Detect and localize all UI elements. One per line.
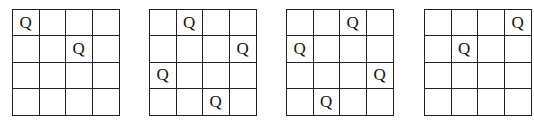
queen-label: Q xyxy=(210,92,222,112)
empty-cell xyxy=(203,63,230,89)
empty-cell xyxy=(13,89,40,115)
queen-label: Q xyxy=(458,39,470,59)
empty-cell xyxy=(367,36,394,62)
empty-cell xyxy=(478,63,505,89)
empty-cell xyxy=(287,10,314,36)
empty-cell xyxy=(367,89,394,115)
queen-label: Q xyxy=(73,39,85,59)
empty-cell xyxy=(505,89,532,115)
empty-cell xyxy=(150,89,177,115)
queen-cell: Q xyxy=(177,10,204,36)
empty-cell xyxy=(230,10,257,36)
queen-cell: Q xyxy=(452,36,479,62)
empty-cell xyxy=(40,89,67,115)
queen-label: Q xyxy=(20,13,32,33)
empty-cell xyxy=(40,36,67,62)
queen-cell: Q xyxy=(314,89,341,115)
queen-label: Q xyxy=(294,39,306,59)
empty-cell xyxy=(40,10,67,36)
queen-cell: Q xyxy=(230,36,257,62)
queen-label: Q xyxy=(374,65,386,85)
queen-cell: Q xyxy=(367,63,394,89)
empty-cell xyxy=(340,36,367,62)
queen-cell: Q xyxy=(66,36,93,62)
empty-cell xyxy=(452,89,479,115)
empty-cell xyxy=(314,63,341,89)
queen-label: Q xyxy=(347,13,359,33)
board-1: QQ xyxy=(12,9,120,116)
empty-cell xyxy=(93,10,120,36)
empty-cell xyxy=(230,63,257,89)
empty-cell xyxy=(177,89,204,115)
empty-cell xyxy=(177,36,204,62)
empty-cell xyxy=(452,63,479,89)
empty-cell xyxy=(287,89,314,115)
empty-cell xyxy=(13,36,40,62)
empty-cell xyxy=(478,89,505,115)
empty-cell xyxy=(150,36,177,62)
empty-cell xyxy=(340,63,367,89)
queen-cell: Q xyxy=(150,63,177,89)
empty-cell xyxy=(340,89,367,115)
empty-cell xyxy=(177,63,204,89)
empty-cell xyxy=(314,10,341,36)
empty-cell xyxy=(505,36,532,62)
queen-cell: Q xyxy=(340,10,367,36)
empty-cell xyxy=(93,63,120,89)
empty-cell xyxy=(40,63,67,89)
empty-cell xyxy=(314,36,341,62)
empty-cell xyxy=(425,36,452,62)
board-2: QQQQ xyxy=(149,9,257,116)
queen-label: Q xyxy=(512,13,524,33)
queen-label: Q xyxy=(157,65,169,85)
empty-cell xyxy=(452,10,479,36)
queen-cell: Q xyxy=(505,10,532,36)
empty-cell xyxy=(425,89,452,115)
queen-cell: Q xyxy=(203,89,230,115)
empty-cell xyxy=(425,10,452,36)
queen-label: Q xyxy=(320,92,332,112)
empty-cell xyxy=(478,10,505,36)
empty-cell xyxy=(93,36,120,62)
empty-cell xyxy=(505,63,532,89)
empty-cell xyxy=(367,10,394,36)
board-4: QQ xyxy=(424,9,532,116)
queen-cell: Q xyxy=(13,10,40,36)
empty-cell xyxy=(287,63,314,89)
queen-label: Q xyxy=(183,13,195,33)
queen-cell: Q xyxy=(287,36,314,62)
empty-cell xyxy=(66,89,93,115)
empty-cell xyxy=(203,36,230,62)
empty-cell xyxy=(150,10,177,36)
empty-cell xyxy=(203,10,230,36)
empty-cell xyxy=(230,89,257,115)
empty-cell xyxy=(13,63,40,89)
empty-cell xyxy=(478,36,505,62)
empty-cell xyxy=(425,63,452,89)
queen-label: Q xyxy=(237,39,249,59)
empty-cell xyxy=(66,63,93,89)
empty-cell xyxy=(66,10,93,36)
empty-cell xyxy=(93,89,120,115)
board-3: QQQQ xyxy=(286,9,394,116)
